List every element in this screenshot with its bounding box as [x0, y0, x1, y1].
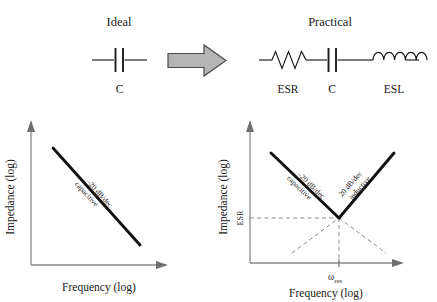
right-block-arrow-icon [168, 45, 226, 76]
esr-level-label: ESR [236, 210, 245, 226]
x-axis-arrowhead [392, 259, 404, 267]
y-axis-label: Impedance (log) [217, 159, 230, 235]
capacitor-icon [92, 48, 147, 72]
y-axis-arrowhead [246, 120, 254, 132]
capacitor-icon-practical [329, 48, 368, 72]
ideal-heading: Ideal [107, 15, 133, 29]
resonance-label: ωres [328, 272, 342, 284]
x-axis-arrowhead [156, 261, 168, 269]
inductive-asymptote [292, 218, 339, 253]
esl-label: ESL [384, 83, 404, 95]
resonance-subscript: res [334, 277, 342, 284]
x-axis-label: Frequency (log) [289, 287, 363, 300]
practical-heading: Practical [308, 15, 352, 29]
resistor-icon [259, 52, 327, 69]
y-axis-label: Impedance (log) [4, 159, 17, 235]
esr-label: ESR [277, 83, 298, 95]
capacitive-asymptote [339, 218, 386, 253]
ideal-capacitor-label: C [116, 83, 124, 95]
capacitor-impedance-figure: Ideal C Practical ESR C [0, 0, 437, 302]
ideal-impedance-plot: –20 dB/dec capacitive Impedance (log) Fr… [0, 105, 210, 302]
inductive-slope-annotation: 20 dB/dec inductive [337, 168, 373, 205]
inductor-icon [367, 52, 427, 60]
circuit-models-panel: Ideal C Practical ESR C [0, 0, 437, 105]
y-axis-arrowhead [27, 120, 35, 132]
practical-impedance-plot: –20 dB/dec capacitive 20 dB/dec inductiv… [210, 105, 437, 302]
x-axis-label: Frequency (log) [62, 281, 136, 294]
capacitor-label: C [328, 83, 336, 95]
